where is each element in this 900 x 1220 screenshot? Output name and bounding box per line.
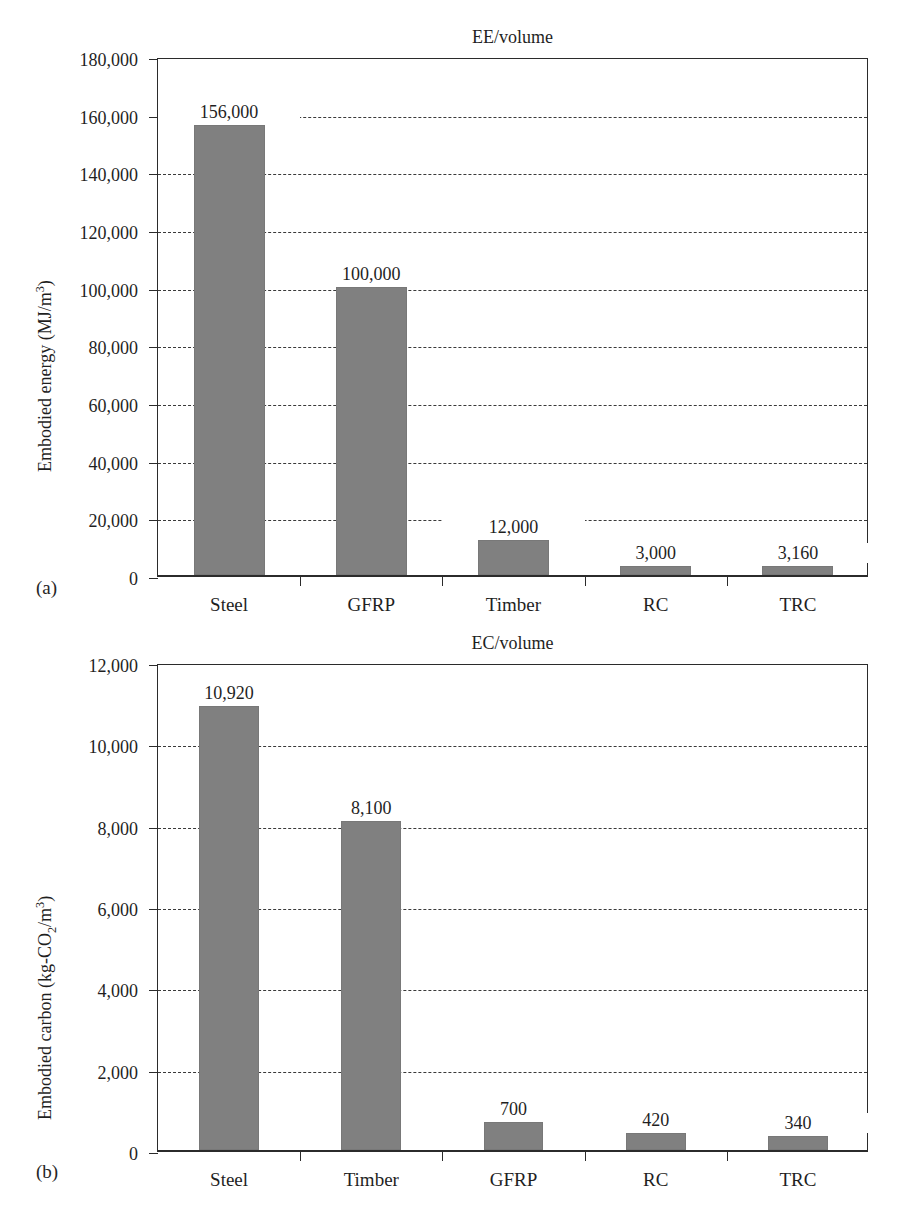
x-tick-mark	[300, 1150, 301, 1161]
y-tick-mark: 10,000	[149, 746, 158, 747]
gridline	[158, 746, 867, 747]
y-tick-mark: 100,000	[149, 290, 158, 291]
chart-panel-a: EE/volume Embodied energy (MJ/m3) 020,00…	[0, 0, 900, 610]
y-tick-label: 8,000	[98, 818, 139, 840]
bar	[620, 566, 691, 575]
bar	[336, 287, 407, 575]
y-tick-label: 40,000	[89, 453, 139, 475]
x-category-label: Timber	[300, 1170, 442, 1189]
gridline	[158, 909, 867, 910]
bar-value-label: 10,920	[158, 683, 300, 703]
bar	[626, 1133, 686, 1150]
plot-area-b: 02,0004,0006,0008,00010,00012,000 SteelT…	[157, 664, 868, 1152]
x-category-label: Steel	[158, 1170, 300, 1189]
y-tick-mark: 2,000	[149, 1072, 158, 1073]
y-tick-mark: 160,000	[149, 117, 158, 118]
y-tick-mark: 140,000	[149, 174, 158, 175]
y-tick-label: 20,000	[89, 510, 139, 532]
x-category-label: TRC	[727, 1170, 869, 1189]
y-tick-mark: 8,000	[149, 828, 158, 829]
y-tick-mark: 0	[149, 578, 158, 579]
y-tick-label: 140,000	[80, 164, 139, 186]
y-tick-label: 0	[129, 568, 138, 590]
bar-value-label: 100,000	[300, 264, 442, 284]
y-tick-label: 0	[129, 1143, 138, 1165]
chart-panel-b: EC/volume Embodied carbon (kg-CO2/m3) 02…	[0, 610, 900, 1220]
x-tick-mark	[585, 1150, 586, 1161]
bar	[194, 125, 265, 575]
y-tick-mark: 40,000	[149, 463, 158, 464]
y-tick-mark: 4,000	[149, 990, 158, 991]
bar-value-label: 12,000	[442, 517, 584, 537]
bar-value-label: 156,000	[158, 102, 300, 122]
y-tick-mark: 12,000	[149, 665, 158, 666]
x-tick-mark	[727, 1150, 728, 1161]
bar-value-label: 3,000	[585, 543, 727, 563]
gridline	[158, 828, 867, 829]
bar	[478, 540, 549, 575]
plot-area-a: 020,00040,00060,00080,000100,000120,0001…	[157, 58, 868, 577]
y-tick-mark: 6,000	[149, 909, 158, 910]
y-tick-label: 180,000	[80, 49, 139, 71]
bar	[484, 1122, 544, 1150]
bar-value-label: 8,100	[300, 798, 442, 818]
y-tick-mark: 80,000	[149, 347, 158, 348]
y-axis-title-b: Embodied carbon (kg-CO2/m3)	[34, 896, 58, 1120]
gridline	[158, 1072, 867, 1073]
y-tick-label: 12,000	[89, 655, 139, 677]
x-category-label: RC	[585, 1170, 727, 1189]
bar-value-label: 700	[442, 1099, 584, 1119]
y-tick-mark: 0	[149, 1153, 158, 1154]
panel-label-b: (b)	[36, 1162, 58, 1181]
bar	[762, 566, 833, 575]
bar-value-label: 3,160	[727, 543, 869, 563]
gridline	[158, 990, 867, 991]
y-tick-mark: 180,000	[149, 59, 158, 60]
x-tick-mark	[442, 575, 443, 586]
y-tick-label: 2,000	[98, 1062, 139, 1084]
y-tick-mark: 20,000	[149, 520, 158, 521]
y-tick-label: 4,000	[98, 980, 139, 1002]
y-tick-label: 160,000	[80, 107, 139, 129]
x-tick-mark	[585, 575, 586, 586]
bar	[199, 706, 259, 1150]
x-category-label: GFRP	[442, 1170, 584, 1189]
chart-title-a: EE/volume	[157, 28, 868, 46]
y-axis-title-a: Embodied energy (MJ/m3)	[34, 280, 54, 472]
y-tick-mark: 60,000	[149, 405, 158, 406]
x-tick-mark	[442, 1150, 443, 1161]
y-tick-label: 120,000	[80, 222, 139, 244]
bar	[341, 821, 401, 1150]
panel-label-a: (a)	[36, 578, 57, 597]
x-tick-mark	[300, 575, 301, 586]
bar	[768, 1136, 828, 1150]
chart-title-b: EC/volume	[157, 634, 868, 652]
y-tick-label: 100,000	[80, 280, 139, 302]
y-tick-mark: 120,000	[149, 232, 158, 233]
y-tick-label: 6,000	[98, 899, 139, 921]
bar-value-label: 340	[727, 1113, 869, 1133]
y-tick-label: 60,000	[89, 395, 139, 417]
x-tick-mark	[727, 575, 728, 586]
y-tick-label: 10,000	[89, 736, 139, 758]
bar-value-label: 420	[585, 1110, 727, 1130]
y-tick-label: 80,000	[89, 337, 139, 359]
